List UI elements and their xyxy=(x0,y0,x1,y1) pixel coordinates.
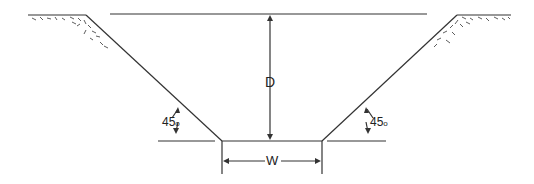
depth-arrow-head-top xyxy=(267,15,273,21)
left-slope xyxy=(86,15,222,141)
left-angle-label: 45o xyxy=(162,115,180,129)
right-angle-unit: o xyxy=(383,119,387,128)
depth-label: D xyxy=(265,74,275,90)
left-angle-unit: o xyxy=(175,119,179,128)
right-angle-label: 45o xyxy=(370,115,388,129)
width-arrow-head-left xyxy=(223,158,229,164)
right-slope xyxy=(322,15,457,141)
right-angle-value: 45 xyxy=(370,115,383,129)
width-arrow-head-right xyxy=(315,158,321,164)
depth-arrow-head-bottom xyxy=(267,134,273,140)
left-angle-value: 45 xyxy=(162,115,175,129)
width-label: W xyxy=(266,153,278,168)
